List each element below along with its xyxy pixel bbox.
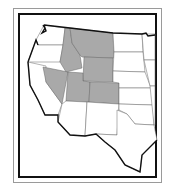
state-north-dakota[interactable] bbox=[113, 33, 143, 52]
state-washington[interactable] bbox=[36, 25, 65, 45]
state-colorado[interactable] bbox=[89, 82, 119, 104]
state-wyoming[interactable] bbox=[83, 57, 113, 82]
state-south-dakota[interactable] bbox=[113, 52, 145, 72]
state-new-mexico[interactable] bbox=[85, 102, 119, 136]
state-minnesota[interactable] bbox=[142, 34, 155, 60]
state-arizona[interactable] bbox=[58, 101, 87, 136]
map-svg bbox=[0, 0, 169, 194]
state-kansas[interactable] bbox=[119, 88, 153, 105]
